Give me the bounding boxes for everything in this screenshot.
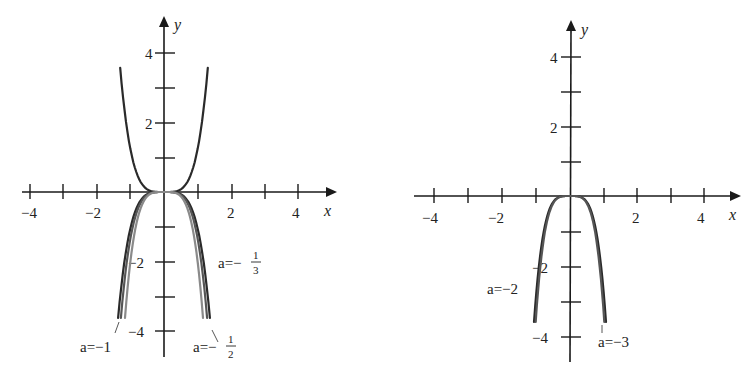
y-axis-arrow-icon <box>159 16 169 27</box>
y-tick-label: 2 <box>145 116 153 132</box>
y-tick-label: 2 <box>550 120 558 136</box>
curve-label-a-neg-three: a=−3 <box>598 334 629 350</box>
right-graph: −4 −2 2 4 x y 4 2 −2 −4 a=−2 a=−3 <box>414 20 741 362</box>
x-tick-label: −4 <box>21 205 37 221</box>
fraction-denominator: 3 <box>253 264 259 276</box>
x-axis-label: x <box>323 202 331 219</box>
curve-label-a-neg-one: a=−1 <box>80 339 111 355</box>
figure: −4 −2 2 4 x y 4 2 −2 −4 a=− 1 3 a=− 1 2 … <box>0 0 745 391</box>
x-tick-label: 2 <box>632 210 640 226</box>
leader-line <box>115 322 119 333</box>
x-tick-label: −2 <box>488 210 504 226</box>
x-tick-label: −4 <box>422 210 438 226</box>
x-axis-arrow-icon <box>326 187 337 197</box>
fraction-numerator: 1 <box>253 249 259 261</box>
fraction-numerator: 1 <box>228 333 234 345</box>
x-axis-label: x <box>728 206 736 223</box>
y-axis-label: y <box>579 21 589 39</box>
x-axis-arrow-icon <box>730 191 741 201</box>
x-tick-label: −2 <box>85 205 101 221</box>
fraction-denominator: 2 <box>228 348 234 360</box>
y-axis-arrow-icon <box>566 20 576 31</box>
y-tick-label: 4 <box>550 50 558 66</box>
x-tick-label: 4 <box>292 205 300 221</box>
curve-label-a-neg-two: a=−2 <box>487 281 518 297</box>
y-tick-label: 4 <box>145 46 153 62</box>
left-graph: −4 −2 2 4 x y 4 2 −2 −4 a=− 1 3 a=− 1 2 … <box>21 16 337 360</box>
y-axis-label: y <box>172 16 182 34</box>
curve-label-a-neg-third: a=− <box>218 255 242 271</box>
y-tick-label: −4 <box>128 324 144 340</box>
y-tick-label: −4 <box>532 330 548 346</box>
x-tick-label: 2 <box>227 205 235 221</box>
curve-label-a-neg-half: a=− <box>193 339 217 355</box>
x-tick-label: 4 <box>697 210 705 226</box>
